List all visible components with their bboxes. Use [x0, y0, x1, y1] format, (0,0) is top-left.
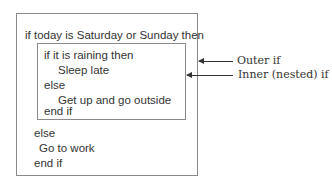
inner-if-header: if it is raining then [44, 48, 134, 62]
inner-if-arrow-icon [187, 75, 233, 76]
outer-else-body: Go to work [39, 141, 95, 155]
inner-else-body: Get up and go outside [58, 93, 171, 107]
outer-else: else [34, 126, 55, 140]
outer-end-if: end if [34, 156, 62, 170]
inner-then-body: Sleep late [58, 63, 109, 77]
outer-if-arrow-icon [199, 61, 233, 62]
inner-if-label: Inner (nested) if [238, 68, 329, 82]
outer-if-header: if today is Saturday or Sunday then [25, 28, 204, 42]
inner-end-if: end if [44, 104, 72, 118]
outer-if-label: Outer if [237, 54, 280, 68]
inner-else: else [44, 78, 65, 92]
